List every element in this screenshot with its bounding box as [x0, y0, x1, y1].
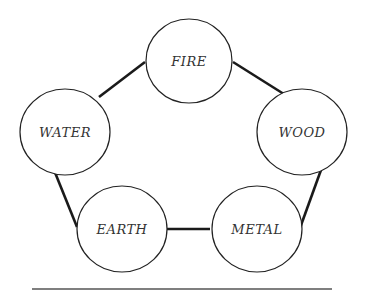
node-wood: WOOD [257, 89, 347, 175]
node-label: EARTH [96, 222, 148, 237]
edge-fire-wood [233, 62, 287, 96]
node-label: FIRE [170, 54, 206, 69]
node-label: WOOD [278, 125, 325, 140]
nodes-group: FIREWOODMETALEARTHWATER [20, 19, 347, 272]
node-label: METAL [230, 222, 282, 237]
node-label: WATER [39, 125, 91, 140]
edge-earth-water [54, 170, 77, 227]
edge-wood-metal [300, 170, 321, 228]
edge-water-fire [99, 62, 145, 97]
node-fire: FIRE [146, 19, 232, 103]
node-water: WATER [20, 89, 110, 175]
node-metal: METAL [212, 186, 302, 272]
five-elements-diagram: FIREWOODMETALEARTHWATER [0, 0, 365, 306]
node-earth: EARTH [77, 186, 167, 272]
